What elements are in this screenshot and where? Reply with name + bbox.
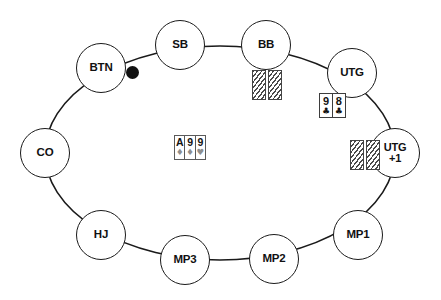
seat-mp2-label: MP2 [262, 253, 285, 265]
seat-hj[interactable]: HJ [76, 210, 126, 260]
seat-mp3[interactable]: MP3 [160, 235, 210, 285]
board-card: 9 ♥ [195, 135, 207, 160]
folded-card [350, 140, 364, 170]
seat-co-label: CO [37, 147, 54, 159]
hole-card: 8 ♣ [332, 93, 346, 118]
seat-mp3-label: MP3 [173, 254, 196, 266]
community-cards: A ♦ 9 ♦ 9 ♥ [174, 135, 206, 160]
card-suit-clubs-icon: ♣ [335, 107, 343, 116]
seat-btn-label: BTN [89, 62, 112, 74]
seat-mp2[interactable]: MP2 [249, 234, 299, 284]
seat-sb-label: SB [172, 39, 188, 51]
seat-sb[interactable]: SB [155, 20, 205, 70]
seat-utg-label: UTG [340, 67, 364, 79]
folded-card [268, 70, 282, 100]
dealer-button-icon [126, 66, 139, 79]
folded-card [366, 140, 380, 170]
seat-utg[interactable]: UTG [327, 48, 377, 98]
seat-mp1-label: MP1 [346, 229, 369, 241]
seat-bb[interactable]: BB [241, 20, 291, 70]
card-suit-hearts-icon: ♥ [197, 148, 205, 157]
poker-table-diagram: SB BB UTG UTG +1 MP1 MP2 MP3 HJ CO BTN [0, 0, 441, 300]
seat-btn[interactable]: BTN [76, 43, 126, 93]
utg-hole-cards: 9 ♣ 8 ♣ [319, 93, 346, 118]
seat-bb-label: BB [258, 39, 274, 51]
seat-co[interactable]: CO [20, 128, 70, 178]
utg1-folded-cards [350, 140, 380, 170]
seat-utg-plus-1-label: UTG +1 [384, 142, 407, 164]
seat-mp1[interactable]: MP1 [333, 210, 383, 260]
card-suit-diamonds-icon: ♦ [186, 148, 194, 157]
card-suit-clubs-icon: ♣ [322, 107, 330, 116]
bb-folded-cards [252, 70, 282, 100]
seat-hj-label: HJ [94, 229, 108, 241]
card-suit-diamonds-icon: ♦ [176, 148, 184, 157]
folded-card [252, 70, 266, 100]
